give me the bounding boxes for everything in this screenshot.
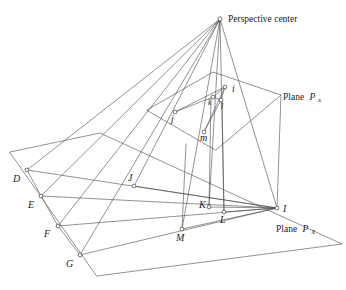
perspective-center-node-group <box>218 17 222 21</box>
label-point-G: G <box>66 258 73 269</box>
image-chain <box>175 97 221 132</box>
object-left-chain <box>27 170 80 255</box>
node-point-F <box>56 224 60 228</box>
ray-center-to-F <box>58 19 220 226</box>
plane-image-symbol: P <box>308 92 315 102</box>
plane-object-prefix: Plane <box>276 224 297 234</box>
label-point-J: J <box>128 172 133 183</box>
label-point-k: k <box>208 98 212 107</box>
image-point-labels-group: i j k l m <box>169 83 235 143</box>
plane-object-symbol: P <box>301 224 308 234</box>
perspective-center-label: Perspective center <box>228 14 298 24</box>
node-point-k <box>211 95 215 99</box>
perspective-center-node <box>218 17 222 21</box>
perspective-projection-figure: i j k l m D E F G J K L M I Perspective … <box>0 0 346 290</box>
label-point-m: m <box>200 132 207 143</box>
node-point-J <box>132 184 136 188</box>
label-point-l: l <box>221 102 223 111</box>
node-point-i <box>223 85 227 89</box>
svg-text:Plane P x: Plane P x <box>283 92 321 103</box>
label-point-E: E <box>27 199 34 210</box>
label-point-j: j <box>169 113 174 124</box>
label-point-M: M <box>175 232 185 243</box>
plane-object-polygon <box>10 133 342 276</box>
line-M-to-I <box>182 208 277 229</box>
projection-rays-group <box>27 19 277 255</box>
node-point-I <box>275 206 279 210</box>
label-point-L: L <box>219 214 226 225</box>
node-point-M <box>180 227 184 231</box>
ray-center-to-I <box>220 19 277 208</box>
object-point-nodes-group <box>25 168 279 257</box>
polyline-DEFG <box>27 170 80 255</box>
perspective-center-annotation: Perspective center <box>228 14 298 24</box>
label-point-F: F <box>43 228 51 239</box>
drop-line-planecorner-I <box>277 95 281 208</box>
object-point-labels-group: D E F G J K L M I <box>12 172 287 269</box>
plane-object-annotation: Plane P X <box>276 224 316 235</box>
line-j-to-i <box>175 87 225 112</box>
label-point-I: I <box>282 203 287 214</box>
node-point-E <box>39 194 43 198</box>
drop-line-m-M <box>182 144 186 229</box>
label-point-D: D <box>12 173 21 184</box>
object-convergence-lines-group <box>27 170 277 255</box>
node-point-D <box>25 168 29 172</box>
plane-object-outline <box>10 133 342 276</box>
plane-image-subscript: x <box>317 96 321 103</box>
image-convergence-lines-group <box>175 87 225 132</box>
node-point-K <box>207 205 211 209</box>
diagram-canvas: i j k l m D E F G J K L M I Perspective … <box>0 0 346 290</box>
label-point-i: i <box>232 83 235 94</box>
plane-image-prefix: Plane <box>283 92 304 102</box>
svg-text:Plane P X: Plane P X <box>276 224 316 235</box>
polyline-jklm <box>175 97 221 132</box>
ray-center-to-D <box>27 19 220 170</box>
node-point-G <box>78 253 82 257</box>
label-point-K: K <box>198 199 207 210</box>
drop-line-l-L <box>222 102 224 212</box>
plane-image-annotation: Plane P x <box>283 92 321 103</box>
